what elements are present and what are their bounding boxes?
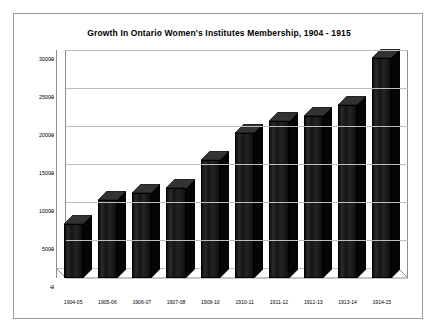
y-axis-tick-label: 20000 <box>20 132 54 138</box>
bar <box>338 96 357 278</box>
chart-frame: Growth In Ontario Women's Institutes Mem… <box>13 13 423 319</box>
x-axis-tick-label: 1905-06 <box>90 299 124 305</box>
bar <box>98 191 117 278</box>
bar <box>166 179 185 278</box>
bar <box>132 184 151 278</box>
bar-front-face <box>64 224 83 278</box>
chart-title: Growth In Ontario Women's Institutes Mem… <box>14 28 424 38</box>
bar-side-face <box>186 179 195 278</box>
bar <box>304 107 323 278</box>
bar-front-face <box>235 133 254 278</box>
y-axis-tick-mark <box>50 59 54 60</box>
y-axis-tick-label: 30000 <box>20 56 54 62</box>
y-axis-tick-label: 15000 <box>20 170 54 176</box>
gridline <box>66 202 408 203</box>
bar <box>235 124 254 278</box>
x-axis-tick-label: 1907-08 <box>159 299 193 305</box>
bar-side-face <box>220 151 229 278</box>
y-axis-tick-mark <box>50 249 54 250</box>
bar-front-face <box>98 200 117 278</box>
bar-side-face <box>83 215 92 278</box>
bar-top-face <box>201 151 229 160</box>
bar-front-face <box>132 193 151 278</box>
x-axis-tick-label: 1904-05 <box>56 299 90 305</box>
bar-front-face <box>372 58 391 278</box>
bar-top-face <box>132 184 160 193</box>
bar-side-face <box>254 124 263 278</box>
y-axis-tick-label: 5000 <box>20 246 54 252</box>
bar-top-face <box>166 179 194 188</box>
bar <box>201 151 220 278</box>
bar-top-face <box>338 96 366 105</box>
bar-side-face <box>357 96 366 278</box>
y-axis-tick-label: 10000 <box>20 208 54 214</box>
x-axis-tick-label: 1913-14 <box>330 299 364 305</box>
gridline <box>66 88 408 89</box>
bar-top-face <box>98 191 126 200</box>
bar-side-face <box>323 107 332 278</box>
x-axis-tick-label: 1911-12 <box>262 299 296 305</box>
gridline <box>66 240 408 241</box>
bar-top-face <box>269 112 297 121</box>
y-axis-tick-label: 25000 <box>20 94 54 100</box>
bars-layer <box>56 50 408 293</box>
bar-side-face <box>117 191 126 278</box>
x-axis-tick-label: 1909-10 <box>193 299 227 305</box>
plot-area <box>56 50 408 293</box>
bar-side-face <box>289 112 298 278</box>
y-axis-tick-mark <box>50 135 54 136</box>
gridline <box>66 126 408 127</box>
gridline <box>66 164 408 165</box>
bar-front-face <box>201 160 220 278</box>
bar <box>269 112 288 278</box>
x-axis-tick-label: 1912-13 <box>296 299 330 305</box>
bar-top-face <box>304 107 332 116</box>
bar-front-face <box>269 121 288 278</box>
bar-side-face <box>151 184 160 278</box>
bar-top-face <box>64 215 92 224</box>
y-axis-tick-mark <box>50 287 54 288</box>
bar-front-face <box>338 105 357 278</box>
y-axis-tick-mark <box>50 173 54 174</box>
x-axis-tick-label: 1910-11 <box>228 299 262 305</box>
y-axis-tick-mark <box>50 211 54 212</box>
bar <box>64 215 83 278</box>
bar-front-face <box>304 116 323 278</box>
y-axis: 050001000015000200002500030000 <box>14 50 54 293</box>
x-axis-tick-label: 1906-07 <box>125 299 159 305</box>
x-axis: 1904-051905-061906-071907-081909-101910-… <box>56 295 408 311</box>
x-axis-tick-label: 1914-15 <box>365 299 399 305</box>
y-axis-tick-mark <box>50 97 54 98</box>
y-axis-tick-label: 0 <box>20 284 54 290</box>
gridline <box>66 50 408 51</box>
